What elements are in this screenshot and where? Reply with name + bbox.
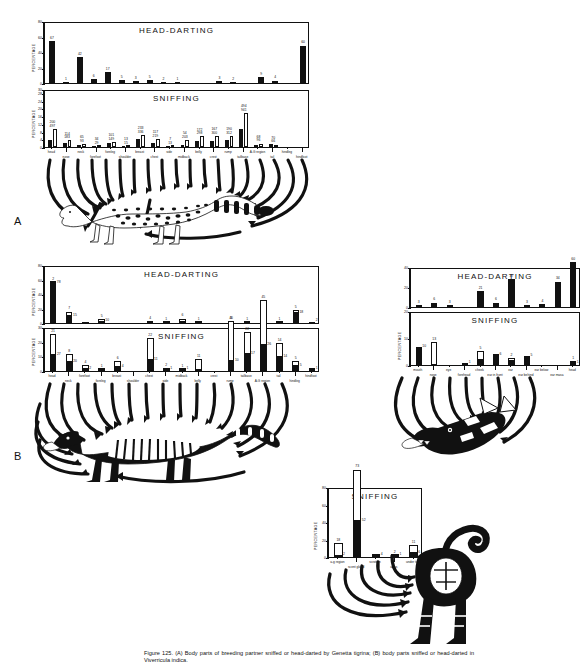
bar-open-label: 6 xyxy=(110,357,125,361)
bar-solid-label: 26 xyxy=(267,343,276,347)
bar-open xyxy=(156,139,160,147)
bar-value-label: 2 xyxy=(223,78,243,82)
y-tick-label: 4 xyxy=(32,138,42,142)
bar-solid-segment xyxy=(309,322,315,323)
bar xyxy=(570,262,576,307)
y-tick-label: 80 xyxy=(32,264,42,268)
bar-open xyxy=(97,145,101,147)
y-tick-label: 40 xyxy=(398,266,408,270)
bar-solid-label: 1 xyxy=(469,361,478,365)
bar-solid-segment xyxy=(524,356,530,365)
x-tick-mark xyxy=(287,147,288,149)
y-axis-spine xyxy=(43,22,44,84)
panel-c: SNIFFING 1827352421116 020406080 PERCENT… xyxy=(296,488,587,653)
y-tick-label: 30 xyxy=(32,326,42,330)
bar-open xyxy=(141,135,145,147)
y-tick-label: 60 xyxy=(32,279,42,283)
bar-open xyxy=(230,136,234,147)
bar xyxy=(447,305,453,307)
chart-a-head-darting-ylabel: PERCENTAGE xyxy=(32,44,36,73)
y-tick-mark xyxy=(408,308,411,309)
bar-value-label: 200497 xyxy=(43,121,62,128)
bar xyxy=(508,279,514,307)
y-axis-spine xyxy=(409,268,410,308)
bar-open-segment xyxy=(353,470,361,521)
x-tick-mark xyxy=(246,371,247,373)
bar-open-label: 6 xyxy=(175,314,189,318)
bar-solid-label: 5 xyxy=(531,354,540,358)
x-axis-label: ear masa xyxy=(538,373,575,377)
bar-solid-label: 11 xyxy=(154,358,163,362)
bar-solid-label: 2 xyxy=(316,319,325,323)
bar-open-segment xyxy=(570,361,576,363)
bar-value-label: 37 xyxy=(501,275,522,279)
x-tick-mark xyxy=(418,365,419,367)
x-tick-mark xyxy=(110,147,111,149)
x-tick-mark xyxy=(51,147,52,149)
bar-value-label: 21 xyxy=(470,287,491,291)
civet-illustration-with-arrows xyxy=(0,384,340,489)
x-tick-mark xyxy=(52,371,53,373)
bar-solid-label: 1 xyxy=(316,367,325,371)
bar-open-label: 73 xyxy=(349,465,365,469)
bar-solid-segment xyxy=(50,355,57,371)
x-tick-mark xyxy=(199,147,200,149)
y-axis-spine xyxy=(43,266,44,324)
bar-open-label: 45 xyxy=(256,296,271,300)
x-tick-mark xyxy=(84,371,85,373)
bar-solid-label: 10 xyxy=(235,359,244,363)
bar xyxy=(161,82,167,83)
panel-a: HEAD-DARTING 6714261753521329460 0204060… xyxy=(0,0,330,260)
bar xyxy=(493,303,499,308)
y-tick-label: 20 xyxy=(398,310,408,314)
y-tick-label: 30 xyxy=(32,88,42,92)
bar xyxy=(539,304,545,307)
bar-solid-label: 1 xyxy=(577,361,586,365)
y-tick-mark xyxy=(42,84,45,85)
bar-solid xyxy=(48,140,52,147)
bar-open-segment xyxy=(228,321,235,361)
chart-b-sniffing-ylabel: PERCENTAGE xyxy=(32,338,36,367)
bar-open-label: 1 xyxy=(191,318,205,322)
y-axis-spine xyxy=(43,90,44,148)
x-tick-mark xyxy=(510,365,511,367)
bar-open-segment xyxy=(195,359,202,370)
chart-b-sniffing-bars: 2127820421642211211111401022174526141455… xyxy=(45,329,318,371)
panel-b-letter: B xyxy=(14,450,21,462)
bar-value-label: 42 xyxy=(70,53,90,57)
bar-open-segment xyxy=(293,310,299,313)
bar xyxy=(119,80,125,83)
x-tick-mark xyxy=(480,365,481,367)
x-tick-mark xyxy=(214,371,215,373)
bar-open-label: 1 xyxy=(159,318,173,322)
bar-open-segment xyxy=(82,365,89,369)
bar-open-label: 13 xyxy=(427,338,441,342)
bar-value-label: 60 xyxy=(293,41,313,45)
bar-open-label: 14 xyxy=(272,339,287,343)
bar xyxy=(91,79,97,83)
bar-open xyxy=(215,136,219,147)
bar-open xyxy=(200,136,204,147)
bar-open xyxy=(244,113,248,147)
bar-open-label: 1 xyxy=(94,365,109,369)
bar-open-segment xyxy=(147,338,154,360)
bar xyxy=(524,305,530,307)
bar xyxy=(272,81,278,84)
x-tick-mark xyxy=(257,147,258,149)
bar-open-label: 2 xyxy=(504,354,518,358)
figure-caption: Figure 125. (A) Body parts of breeding p… xyxy=(144,650,474,664)
chart-a-head-darting: HEAD-DARTING 6714261753521329460 xyxy=(44,22,309,84)
x-axis-label: hindfoot xyxy=(292,374,331,378)
x-axis-label: hindleg xyxy=(275,379,314,383)
x-tick-mark xyxy=(228,147,229,149)
bar-open-label: 22 xyxy=(143,334,158,338)
bar-open-label: 5 xyxy=(473,347,487,351)
chart-b-head-darting-ylabel: PERCENTAGE xyxy=(32,288,36,317)
bar-solid-segment xyxy=(66,316,72,323)
bar-open xyxy=(274,145,278,147)
y-axis-spine xyxy=(43,328,44,372)
x-tick-mark xyxy=(182,371,183,373)
bar xyxy=(416,305,422,307)
bar-open-segment xyxy=(244,332,251,354)
x-tick-mark xyxy=(279,371,280,373)
